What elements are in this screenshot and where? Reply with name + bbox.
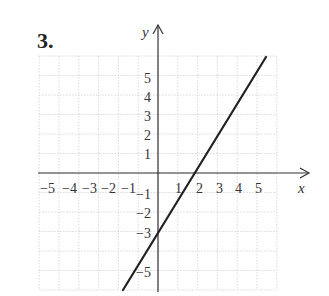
- x-tick-label: −4: [62, 181, 77, 196]
- y-tick-label: 2: [144, 128, 151, 143]
- y-tick-label: 1: [144, 147, 151, 162]
- y-tick-label: 5: [144, 71, 151, 86]
- x-tick-label: −1: [121, 181, 136, 196]
- y-axis-label: y: [140, 24, 149, 40]
- y-tick-label: −1: [136, 187, 151, 202]
- coordinate-plane: x y −5 −4 −3 −2 −1 1 2 3 4 5 5 4 3 2 1 −…: [0, 0, 329, 296]
- y-tick-label: −3: [136, 226, 151, 241]
- x-tick-label: −5: [40, 181, 55, 196]
- y-tick-label: −2: [136, 206, 151, 221]
- x-tick-label: 4: [235, 181, 242, 196]
- x-tick-label: 3: [216, 181, 223, 196]
- x-tick-label: 5: [255, 181, 262, 196]
- x-tick-label: −2: [101, 181, 116, 196]
- y-tick-label: 4: [144, 90, 151, 105]
- y-tick-label: 3: [144, 109, 151, 124]
- x-tick-label: −3: [82, 181, 97, 196]
- x-axis-label: x: [297, 180, 305, 196]
- x-tick-label: 2: [196, 181, 203, 196]
